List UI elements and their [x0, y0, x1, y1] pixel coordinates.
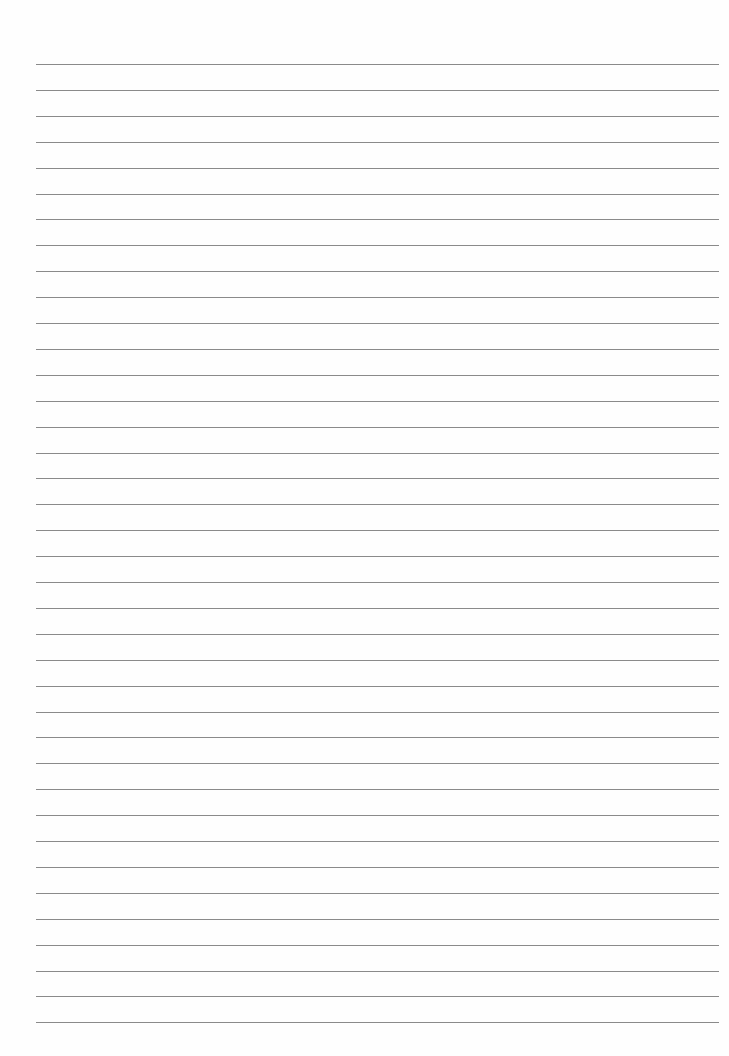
- ruled-line: [36, 686, 719, 687]
- ruled-line: [36, 971, 719, 972]
- ruled-line: [36, 530, 719, 531]
- ruled-line: [36, 660, 719, 661]
- ruled-line: [36, 815, 719, 816]
- ruled-line: [36, 90, 719, 91]
- ruled-line: [36, 556, 719, 557]
- ruled-line: [36, 504, 719, 505]
- ruled-line: [36, 401, 719, 402]
- ruled-line: [36, 427, 719, 428]
- ruled-line: [36, 737, 719, 738]
- ruled-line: [36, 1022, 719, 1023]
- ruled-line: [36, 375, 719, 376]
- ruled-line: [36, 945, 719, 946]
- ruled-line: [36, 919, 719, 920]
- ruled-line: [36, 219, 719, 220]
- ruled-line: [36, 142, 719, 143]
- ruled-line: [36, 168, 719, 169]
- ruled-line: [36, 634, 719, 635]
- ruled-line: [36, 245, 719, 246]
- ruled-line: [36, 608, 719, 609]
- ruled-line: [36, 453, 719, 454]
- ruled-line: [36, 712, 719, 713]
- lined-sheet: [0, 0, 729, 1056]
- ruled-line: [36, 349, 719, 350]
- ruled-line: [36, 297, 719, 298]
- ruled-line: [36, 763, 719, 764]
- ruled-line: [36, 478, 719, 479]
- ruled-line: [36, 271, 719, 272]
- ruled-line: [36, 893, 719, 894]
- ruled-line: [36, 867, 719, 868]
- ruled-line: [36, 996, 719, 997]
- ruled-line: [36, 194, 719, 195]
- ruled-line: [36, 789, 719, 790]
- ruled-line: [36, 841, 719, 842]
- ruled-line: [36, 582, 719, 583]
- ruled-line: [36, 116, 719, 117]
- ruled-line: [36, 64, 719, 65]
- ruled-line: [36, 323, 719, 324]
